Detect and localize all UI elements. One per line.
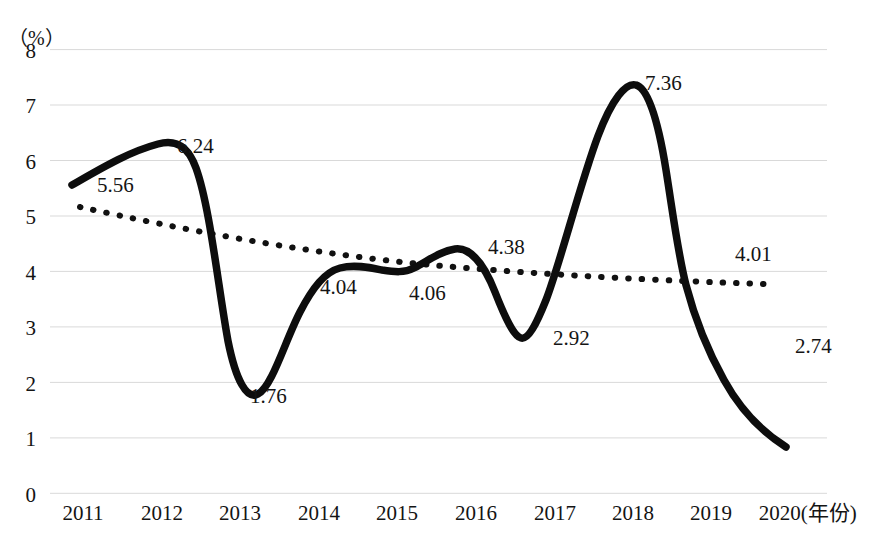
data-label-2015: 4.06 [409,283,446,304]
x-tick-label-2017: 2017 [534,503,576,524]
x-tick-label-2020: 2020(年份) [759,503,857,524]
x-tick-label-2015: 2015 [376,503,418,524]
trend-line-series [80,207,765,284]
x-tick-label-2018: 2018 [612,503,654,524]
x-tick-label-2012: 2012 [141,503,183,524]
x-tick-label-2014: 2014 [298,503,340,524]
data-label-2012: 6.24 [177,136,214,157]
data-label-2016: 4.38 [488,237,525,258]
x-tick-label-2019: 2019 [690,503,732,524]
chart-container: （%） 8 7 6 5 4 3 2 1 0 5.56 6.24 1.76 4.0… [0,0,876,553]
x-tick-label-2011: 2011 [62,503,103,524]
x-tick-label-2016: 2016 [455,503,497,524]
gridlines [50,50,827,494]
data-label-2013: 1.76 [250,386,287,407]
data-label-2017: 2.92 [553,328,590,349]
data-label-2019: 4.01 [735,244,772,265]
data-label-2011: 5.56 [97,175,134,196]
x-tick-label-2013: 2013 [219,503,261,524]
plot-area [0,0,876,553]
data-label-2020: 2.74 [795,336,832,357]
data-label-2018: 7.36 [645,73,682,94]
data-label-2014: 4.04 [320,277,357,298]
